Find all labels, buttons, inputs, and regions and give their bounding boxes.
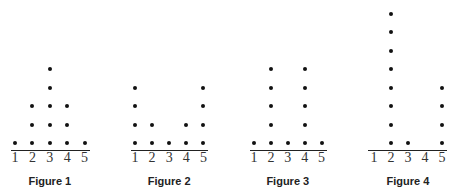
data-dot xyxy=(440,86,444,90)
data-dot xyxy=(440,104,444,108)
tick-label: 5 xyxy=(435,150,449,166)
data-dot xyxy=(406,141,410,145)
data-dot xyxy=(440,123,444,127)
data-dot xyxy=(389,141,393,145)
figure-4: 12345Figure 4 xyxy=(0,0,455,189)
tick-label: 3 xyxy=(401,150,415,166)
data-dot xyxy=(389,67,393,71)
data-dot xyxy=(389,86,393,90)
data-dot xyxy=(389,30,393,34)
data-dot xyxy=(389,49,393,53)
tick-label: 1 xyxy=(367,150,381,166)
data-dot xyxy=(389,12,393,16)
tick-label: 4 xyxy=(418,150,432,166)
figure-caption: Figure 4 xyxy=(358,175,455,187)
data-dot xyxy=(389,104,393,108)
tick-label: 2 xyxy=(384,150,398,166)
data-dot xyxy=(389,123,393,127)
data-dot xyxy=(440,141,444,145)
